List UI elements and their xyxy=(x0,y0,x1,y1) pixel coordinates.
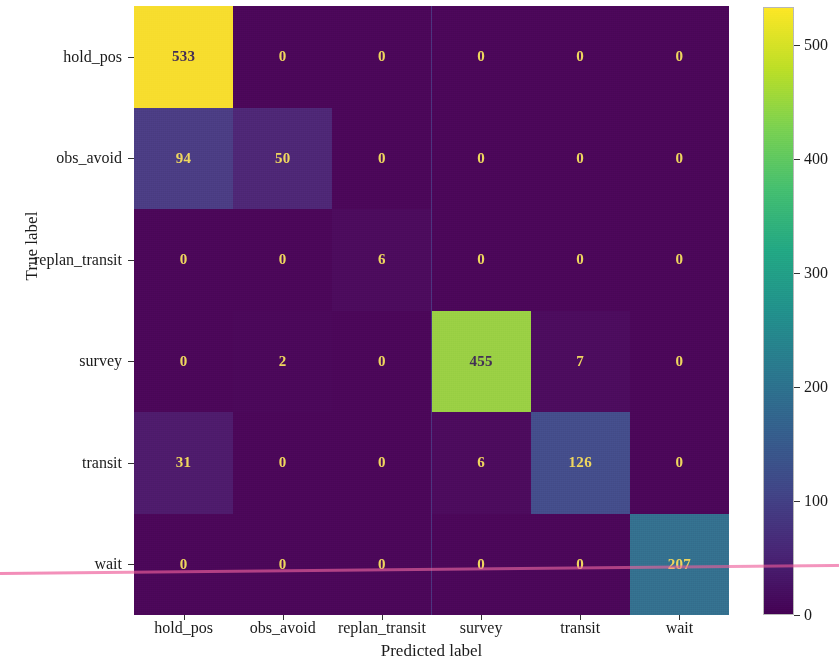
heatmap-plot-area: 5330000094500000006000020455703100612600… xyxy=(134,6,729,615)
heatmap-cell-value: 0 xyxy=(676,454,684,471)
heatmap-cell: 0 xyxy=(134,311,233,413)
heatmap-cell-value: 0 xyxy=(477,556,485,573)
x-tick-label-replan_transit: replan_transit xyxy=(338,619,426,637)
heatmap-cell: 0 xyxy=(630,6,729,108)
heatmap-cell: 207 xyxy=(630,514,729,616)
heatmap-cell-value: 0 xyxy=(378,454,386,471)
x-tick-label-transit: transit xyxy=(560,619,600,637)
heatmap-cell: 0 xyxy=(630,412,729,514)
x-tick-mark xyxy=(283,615,284,620)
heatmap-cell-value: 533 xyxy=(172,48,195,65)
heatmap-cell-value: 207 xyxy=(668,556,691,573)
x-tick-mark xyxy=(481,615,482,620)
heatmap-cell-value: 2 xyxy=(279,353,287,370)
y-tick-label-obs_avoid: obs_avoid xyxy=(56,149,122,167)
x-tick-label-wait: wait xyxy=(666,619,694,637)
colorbar-tick-label-400: 400 xyxy=(804,150,828,168)
colorbar-tick-label-100: 100 xyxy=(804,492,828,510)
heatmap-cell-value: 0 xyxy=(676,150,684,167)
heatmap-cell: 94 xyxy=(134,108,233,210)
heatmap-cell: 2 xyxy=(233,311,332,413)
heatmap-cell: 0 xyxy=(233,514,332,616)
heatmap-cell-value: 0 xyxy=(378,48,386,65)
heatmap-cell-value: 0 xyxy=(676,48,684,65)
x-tick-label-hold_pos: hold_pos xyxy=(154,619,213,637)
heatmap-cell: 50 xyxy=(233,108,332,210)
x-tick-label-survey: survey xyxy=(460,619,503,637)
heatmap-cell: 455 xyxy=(432,311,531,413)
heatmap-cell-value: 0 xyxy=(378,353,386,370)
heatmap-cell-value: 0 xyxy=(378,150,386,167)
heatmap-cell: 0 xyxy=(630,209,729,311)
heatmap-cell: 0 xyxy=(432,514,531,616)
heatmap-cell-value: 94 xyxy=(176,150,192,167)
colorbar-tick-label-300: 300 xyxy=(804,264,828,282)
heatmap-cell-value: 126 xyxy=(569,454,592,471)
heatmap-cell-value: 0 xyxy=(279,556,287,573)
x-tick-mark xyxy=(679,615,680,620)
heatmap-cell: 0 xyxy=(531,209,630,311)
colorbar xyxy=(763,7,794,615)
y-tick-label-transit: transit xyxy=(82,454,122,472)
heatmap-cell: 126 xyxy=(531,412,630,514)
colorbar-tick-mark xyxy=(794,273,800,274)
colorbar-tick-mark xyxy=(794,501,800,502)
colorbar-tick-mark xyxy=(794,45,800,46)
y-tick-label-replan_transit: replan_transit xyxy=(34,251,122,269)
heatmap-cell-value: 50 xyxy=(275,150,291,167)
heatmap-cell-value: 0 xyxy=(576,556,584,573)
heatmap-cell: 0 xyxy=(432,6,531,108)
heatmap-cell-value: 0 xyxy=(576,150,584,167)
heatmap-cell: 0 xyxy=(531,6,630,108)
x-tick-mark xyxy=(382,615,383,620)
y-axis-tick-labels: hold_posobs_avoidreplan_transitsurveytra… xyxy=(0,0,128,671)
heatmap-cell-value: 0 xyxy=(576,251,584,268)
confusion-matrix-figure: True label hold_posobs_avoidreplan_trans… xyxy=(0,0,839,671)
heatmap-cell-value: 0 xyxy=(676,353,684,370)
heatmap-cell-value: 0 xyxy=(180,556,188,573)
heatmap-cell: 6 xyxy=(332,209,431,311)
heatmap-cell-value: 6 xyxy=(378,251,386,268)
heatmap-cell: 0 xyxy=(332,108,431,210)
heatmap-cell: 7 xyxy=(531,311,630,413)
y-tick-label-wait: wait xyxy=(94,555,122,573)
heatmap-cell: 0 xyxy=(432,209,531,311)
heatmap-cell: 0 xyxy=(332,514,431,616)
heatmap-cell: 0 xyxy=(332,6,431,108)
heatmap-cell-value: 0 xyxy=(279,251,287,268)
heatmap-cell: 0 xyxy=(630,108,729,210)
heatmap-cell-value: 455 xyxy=(469,353,492,370)
colorbar-tick-mark xyxy=(794,615,800,616)
heatmap-cell: 0 xyxy=(134,514,233,616)
heatmap-cell-value: 7 xyxy=(576,353,584,370)
x-tick-mark xyxy=(184,615,185,620)
heatmap-cell: 533 xyxy=(134,6,233,108)
y-tick-label-hold_pos: hold_pos xyxy=(63,48,122,66)
heatmap-cell-value: 0 xyxy=(180,251,188,268)
heatmap-cell: 0 xyxy=(233,209,332,311)
heatmap-cell: 0 xyxy=(432,108,531,210)
heatmap-cell: 0 xyxy=(332,412,431,514)
x-tick-label-obs_avoid: obs_avoid xyxy=(250,619,316,637)
heatmap-cell-value: 0 xyxy=(279,48,287,65)
colorbar-tick-mark xyxy=(794,159,800,160)
heatmap-cell-value: 31 xyxy=(176,454,192,471)
heatmap-cell-value: 6 xyxy=(477,454,485,471)
heatmap-cell-value: 0 xyxy=(676,251,684,268)
heatmap-cell: 31 xyxy=(134,412,233,514)
heatmap-cell-value: 0 xyxy=(180,353,188,370)
heatmap-cell: 6 xyxy=(432,412,531,514)
colorbar-tick-label-500: 500 xyxy=(804,36,828,54)
heatmap-cell: 0 xyxy=(332,311,431,413)
y-tick-label-survey: survey xyxy=(79,352,122,370)
heatmap-cell-value: 0 xyxy=(378,556,386,573)
heatmap-cell-value: 0 xyxy=(279,454,287,471)
heatmap-cell-value: 0 xyxy=(477,48,485,65)
heatmap-cell: 0 xyxy=(134,209,233,311)
x-axis-label: Predicted label xyxy=(134,641,729,661)
x-tick-mark xyxy=(580,615,581,620)
colorbar-tick-label-200: 200 xyxy=(804,378,828,396)
heatmap-cell-value: 0 xyxy=(477,150,485,167)
heatmap-cell: 0 xyxy=(233,412,332,514)
heatmap-cell: 0 xyxy=(531,514,630,616)
